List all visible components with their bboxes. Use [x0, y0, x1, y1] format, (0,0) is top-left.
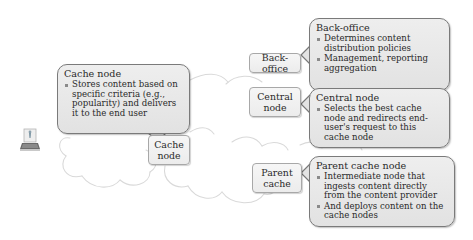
back-office-callout: Back-office Determines content distribut… [309, 18, 450, 91]
cache-node-label-line2: node [154, 150, 184, 161]
central-node-callout: Central node Selects the best cache node… [309, 88, 450, 148]
cache-node-bullet: Stores content based on specific criteri… [64, 80, 184, 118]
central-node-label-line1: Central [257, 91, 293, 102]
parent-cache-label-line2: cache [261, 178, 292, 189]
back-office-label: Back-office [249, 53, 301, 73]
cdn-architecture-diagram: Cache node Stores content based on speci… [0, 0, 473, 240]
central-node-label-line2: node [257, 102, 293, 113]
cache-node-label: Cache node [148, 135, 190, 165]
cache-node-callout-title: Cache node [64, 68, 184, 79]
user-laptop-icon [20, 128, 40, 154]
back-office-label-text: Back-office [250, 52, 300, 74]
parent-cache-label-line1: Parent [261, 167, 292, 178]
cache-node-callout-bullets: Stores content based on specific criteri… [64, 80, 184, 118]
central-node-bullet: Selects the best cache node and redirect… [316, 104, 444, 142]
back-office-bullet: Determines content distribution policies [316, 34, 444, 53]
parent-cache-callout: Parent cache node Intermediate node that… [309, 156, 455, 227]
back-office-bullet: Management, reporting aggregation [316, 54, 444, 73]
back-office-callout-title: Back-office [316, 22, 444, 33]
back-office-callout-bullets: Determines content distribution policies… [316, 34, 444, 73]
central-node-callout-bullets: Selects the best cache node and redirect… [316, 104, 444, 142]
parent-cache-bullet: Intermediate node that ingests content d… [316, 172, 449, 201]
central-node-label: Central node [249, 87, 301, 117]
cache-node-callout: Cache node Stores content based on speci… [57, 64, 190, 134]
parent-cache-callout-title: Parent cache node [316, 160, 449, 171]
cache-node-label-line1: Cache [154, 139, 184, 150]
parent-cache-bullet: And deploys content on the cache nodes [316, 202, 449, 221]
central-node-callout-title: Central node [316, 92, 444, 103]
parent-cache-label: Parent cache [252, 163, 302, 193]
parent-cache-callout-bullets: Intermediate node that ingests content d… [316, 172, 449, 221]
